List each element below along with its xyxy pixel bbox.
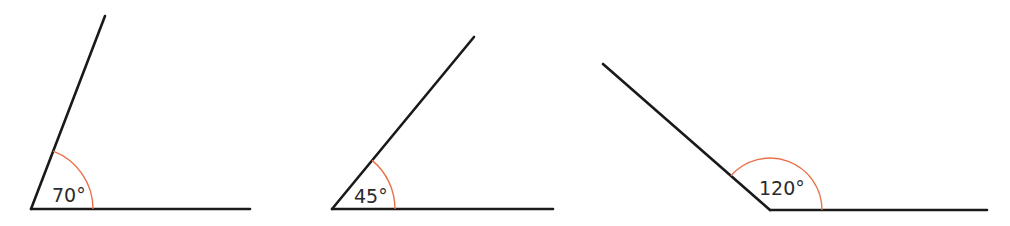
angle-45: 45° <box>332 37 553 209</box>
angle-45-arm-ray <box>332 37 474 209</box>
angle-120: 120° <box>603 64 987 210</box>
angle-120-arm-ray <box>603 64 770 210</box>
angle-diagram: 70° 45° 120° <box>0 0 1010 226</box>
angle-70-arm-ray <box>31 16 105 209</box>
angle-70: 70° <box>31 16 250 209</box>
angle-70-label: 70° <box>52 184 86 206</box>
angle-120-label: 120° <box>759 177 805 199</box>
angle-45-label: 45° <box>354 185 388 207</box>
